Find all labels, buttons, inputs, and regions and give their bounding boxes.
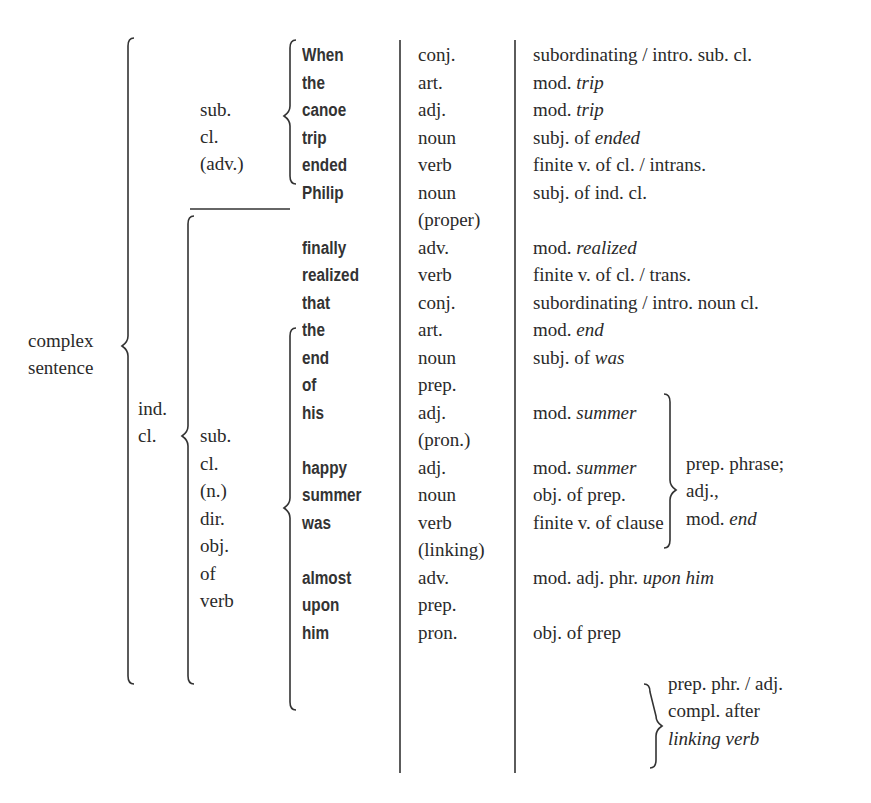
prep-phrase-brace	[664, 394, 676, 548]
row-pos: noun	[418, 182, 456, 204]
sub-clause-adv-brace	[284, 40, 296, 184]
row-function-italic: was	[595, 347, 625, 368]
row-function-text: mod.	[533, 72, 576, 93]
row-function-italic: trip	[576, 99, 603, 120]
row-function-text: subordinating / intro. sub. cl.	[533, 44, 752, 65]
sub-n-label-2: cl.	[200, 453, 218, 475]
row-function: subj. of ind. cl.	[533, 182, 647, 204]
row-function: mod. adj. phr. upon him	[533, 567, 714, 589]
row-word: end	[302, 347, 329, 369]
sub-n-label-4: dir.	[200, 508, 225, 530]
row-function: mod. summer	[533, 457, 636, 479]
row-word: When	[302, 44, 344, 66]
prep-phrase-label-1: prep. phrase;	[686, 453, 784, 475]
row-function-text: obj. of prep	[533, 622, 621, 643]
row-function-italic: end	[576, 319, 603, 340]
row-word: almost	[302, 567, 351, 589]
sub-n-label-5: obj.	[200, 535, 229, 557]
upon-him-label-3: linking verb	[668, 728, 759, 750]
row-function: obj. of prep.	[533, 484, 626, 506]
row-function: mod. trip	[533, 72, 604, 94]
row-word: happy	[302, 457, 347, 479]
row-function: mod. summer	[533, 402, 636, 424]
row-word: the	[302, 319, 325, 341]
row-function: mod. realized	[533, 237, 637, 259]
sub-adv-label-2: cl.	[200, 126, 218, 148]
row-pos: adj.	[418, 402, 446, 424]
ind-label-2: cl.	[138, 425, 156, 447]
row-word: ended	[302, 154, 347, 176]
row-function-italic: summer	[576, 402, 636, 423]
row-pos: adv.	[418, 237, 449, 259]
sub-clause-noun-brace	[284, 328, 296, 710]
sub-n-label-7: verb	[200, 590, 234, 612]
row-function-text: finite v. of cl. / intrans.	[533, 154, 706, 175]
root-label-line1: complex	[28, 330, 93, 352]
ind-label-1: ind.	[138, 398, 167, 420]
row-function-text: subordinating / intro. noun cl.	[533, 292, 759, 313]
row-word: of	[302, 374, 316, 396]
row-pos: (linking)	[418, 539, 485, 561]
sub-n-label-1: sub.	[200, 425, 231, 447]
row-function: subj. of ended	[533, 127, 640, 149]
row-function-text: mod. adj. phr.	[533, 567, 643, 588]
row-pos: verb	[418, 154, 452, 176]
row-word: upon	[302, 594, 339, 616]
row-word: summer	[302, 484, 362, 506]
row-pos: adj.	[418, 99, 446, 121]
prep-phrase-label-3: mod. end	[686, 508, 757, 530]
row-pos: conj.	[418, 292, 455, 314]
row-function-italic: upon him	[643, 567, 714, 588]
row-function: finite v. of cl. / intrans.	[533, 154, 706, 176]
row-pos: noun	[418, 347, 456, 369]
row-word: his	[302, 402, 324, 424]
sub-n-label-6: of	[200, 563, 216, 585]
row-function-text: mod.	[533, 402, 576, 423]
row-function: obj. of prep	[533, 622, 621, 644]
upon-him-label-1: prep. phr. / adj.	[668, 673, 783, 695]
row-function: mod. end	[533, 319, 604, 341]
row-pos: (proper)	[418, 209, 480, 231]
row-function: subordinating / intro. sub. cl.	[533, 44, 752, 66]
sub-n-label-3: (n.)	[200, 480, 227, 502]
row-function-italic: summer	[576, 457, 636, 478]
sub-adv-label-1: sub.	[200, 99, 231, 121]
row-word: was	[302, 512, 331, 534]
row-function: subj. of was	[533, 347, 624, 369]
row-word: the	[302, 72, 325, 94]
row-word: canoe	[302, 99, 346, 121]
prep-phrase-label-2: adj.,	[686, 480, 719, 502]
row-pos: art.	[418, 72, 443, 94]
row-function-italic: ended	[595, 127, 640, 148]
row-pos: verb	[418, 512, 452, 534]
row-function: mod. trip	[533, 99, 604, 121]
row-function-text: mod.	[533, 237, 576, 258]
row-function-text: subj. of	[533, 347, 595, 368]
row-pos: prep.	[418, 594, 457, 616]
row-word: him	[302, 622, 329, 644]
row-function-text: finite v. of clause	[533, 512, 664, 533]
row-pos: noun	[418, 484, 456, 506]
row-word: realized	[302, 264, 359, 286]
row-pos: prep.	[418, 374, 457, 396]
row-function: finite v. of clause	[533, 512, 664, 534]
row-word: that	[302, 292, 330, 314]
row-pos: art.	[418, 319, 443, 341]
row-pos: conj.	[418, 44, 455, 66]
row-function: subordinating / intro. noun cl.	[533, 292, 759, 314]
row-word: Philip	[302, 182, 344, 204]
row-pos: (pron.)	[418, 429, 470, 451]
sub-adv-label-3: (adv.)	[200, 153, 244, 175]
row-function-text: mod.	[533, 99, 576, 120]
row-word: trip	[302, 127, 327, 149]
row-function-text: subj. of ind. cl.	[533, 182, 647, 203]
row-function-italic: realized	[576, 237, 637, 258]
row-word: finally	[302, 237, 346, 259]
row-function-italic: trip	[576, 72, 603, 93]
row-pos: adj.	[418, 457, 446, 479]
upon-him-brace	[644, 684, 662, 768]
row-function: finite v. of cl. / trans.	[533, 264, 691, 286]
row-function-text: mod.	[533, 319, 576, 340]
row-pos: verb	[418, 264, 452, 286]
row-function-text: finite v. of cl. / trans.	[533, 264, 691, 285]
